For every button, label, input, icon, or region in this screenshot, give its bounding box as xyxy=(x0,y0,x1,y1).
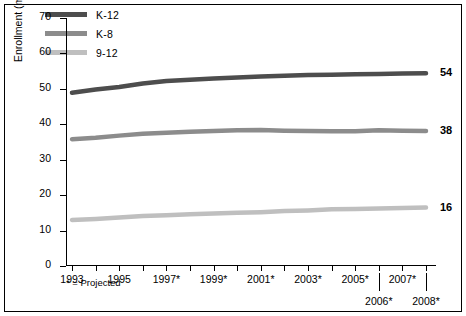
x-tick xyxy=(355,266,356,271)
x-tick xyxy=(332,266,333,271)
y-tick-label: 10 xyxy=(11,223,51,235)
end-label-k8: 38 xyxy=(440,124,452,136)
x-tick-label: 1997* xyxy=(153,273,180,285)
y-tick-label: 0 xyxy=(11,258,51,270)
plot-area: 010203040506070 199319951997*1999*2001*2… xyxy=(66,18,436,266)
x-tick xyxy=(308,266,309,271)
x-tick xyxy=(402,266,403,271)
x-tick-label: 2001* xyxy=(247,273,274,285)
y-tick: 0 xyxy=(60,266,66,267)
x-tick-label-secondary: 2006* xyxy=(365,295,392,307)
x-tick-label: 2005* xyxy=(341,273,368,285)
y-tick-label: 30 xyxy=(11,152,51,164)
x-tick xyxy=(143,266,144,271)
x-tick-connector xyxy=(426,273,427,291)
x-tick-label: 2007* xyxy=(389,273,416,285)
y-tick-label: 70 xyxy=(11,10,51,22)
x-tick xyxy=(166,266,167,271)
y-tick-label: 20 xyxy=(11,187,51,199)
y-tick-label: 50 xyxy=(11,81,51,93)
x-tick xyxy=(426,266,427,271)
y-tick-label: 60 xyxy=(11,45,51,57)
series-lines xyxy=(66,18,436,266)
x-tick xyxy=(284,266,285,271)
x-tick-label-secondary: 2008* xyxy=(412,295,439,307)
y-tick-label: 40 xyxy=(11,116,51,128)
series-line-9-12 xyxy=(72,208,426,220)
x-tick xyxy=(119,266,120,271)
chart-figure: Enrollment (millions) K-12 K-8 9-12 0102… xyxy=(0,0,466,316)
x-tick xyxy=(379,266,380,271)
x-tick-label: 2003* xyxy=(294,273,321,285)
x-tick xyxy=(214,266,215,271)
footnote: * = Projected xyxy=(66,277,121,288)
end-label-k12: 54 xyxy=(440,66,452,78)
x-tick-connector xyxy=(379,273,380,291)
legend-swatch-k12 xyxy=(45,12,87,17)
x-tick xyxy=(190,266,191,271)
end-label-912: 16 xyxy=(440,201,452,213)
x-tick xyxy=(237,266,238,271)
x-tick-label: 1999* xyxy=(200,273,227,285)
x-tick xyxy=(261,266,262,271)
x-tick xyxy=(96,266,97,271)
series-line-k-12 xyxy=(72,73,426,92)
series-line-k-8 xyxy=(72,130,426,139)
x-tick xyxy=(72,266,73,271)
